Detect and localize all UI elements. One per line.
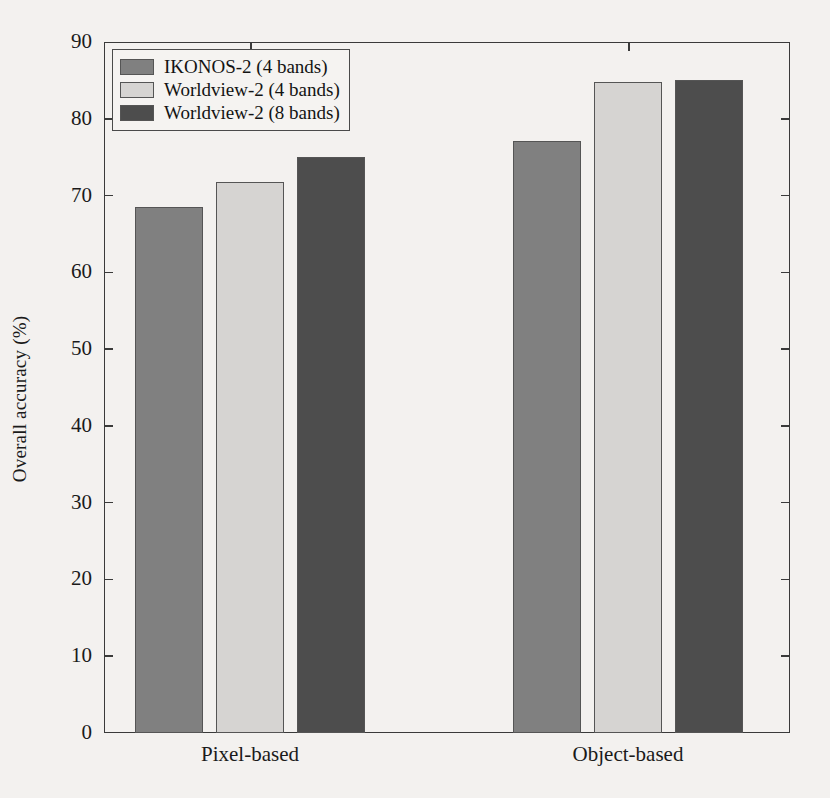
y-tick-mark <box>781 348 790 350</box>
y-tick-mark <box>781 425 790 427</box>
y-tick-label: 60 <box>48 259 92 284</box>
chart-legend: IKONOS-2 (4 bands)Worldview-2 (4 bands)W… <box>112 49 350 131</box>
bar <box>675 80 743 733</box>
legend-item-label: Worldview-2 (8 bands) <box>164 103 340 122</box>
y-tick-label: 30 <box>48 490 92 515</box>
y-tick-label: 20 <box>48 566 92 591</box>
legend-item-label: IKONOS-2 (4 bands) <box>164 57 328 76</box>
y-tick-label: 50 <box>48 336 92 361</box>
legend-swatch-icon <box>120 105 154 121</box>
y-tick-label: 70 <box>48 183 92 208</box>
y-tick-mark <box>104 579 113 581</box>
y-tick-mark <box>781 195 790 197</box>
y-tick-mark <box>781 655 790 657</box>
y-tick-mark <box>781 502 790 504</box>
y-tick-label: 0 <box>48 720 92 745</box>
y-tick-label: 10 <box>48 643 92 668</box>
legend-swatch-icon <box>120 82 154 98</box>
y-axis-label: Overall accuracy (%) <box>0 0 40 798</box>
bar-chart-figure: Overall accuracy (%) 0102030405060708090… <box>0 0 830 798</box>
bar <box>135 207 203 733</box>
y-tick-label: 40 <box>48 413 92 438</box>
y-tick-mark <box>104 195 113 197</box>
bar <box>297 157 365 733</box>
bar <box>594 82 662 733</box>
y-tick-mark <box>104 272 113 274</box>
y-tick-mark <box>781 579 790 581</box>
bar <box>513 141 581 733</box>
y-tick-mark <box>104 348 113 350</box>
y-tick-label: 80 <box>48 106 92 131</box>
x-tick-label: Pixel-based <box>130 742 370 767</box>
legend-item: Worldview-2 (8 bands) <box>120 101 340 124</box>
y-tick-mark <box>104 502 113 504</box>
y-tick-mark <box>781 118 790 120</box>
x-tick-mark <box>628 42 630 51</box>
legend-item: Worldview-2 (4 bands) <box>120 78 340 101</box>
legend-item-label: Worldview-2 (4 bands) <box>164 80 340 99</box>
legend-item: IKONOS-2 (4 bands) <box>120 55 340 78</box>
legend-swatch-icon <box>120 59 154 75</box>
x-tick-label: Object-based <box>508 742 748 767</box>
bar <box>216 182 284 733</box>
y-tick-mark <box>781 272 790 274</box>
y-tick-mark <box>104 655 113 657</box>
y-tick-mark <box>104 425 113 427</box>
y-tick-label: 90 <box>48 29 92 54</box>
